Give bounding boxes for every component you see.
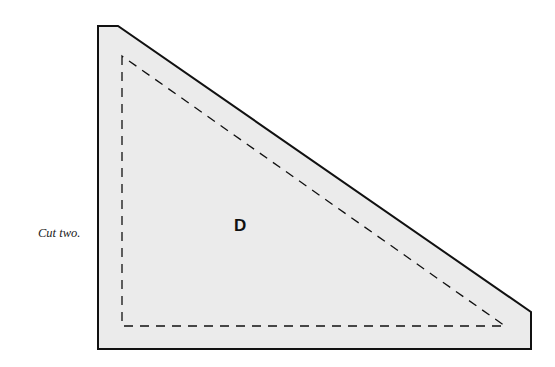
pattern-outline (98, 26, 531, 349)
pattern-canvas: D Cut two. (0, 0, 555, 367)
cut-instruction: Cut two. (38, 226, 80, 241)
pattern-piece-d (0, 0, 555, 367)
piece-label: D (234, 216, 246, 236)
